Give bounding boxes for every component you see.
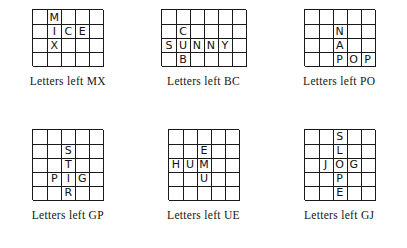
- grid-cell-empty[interactable]: [89, 38, 104, 53]
- grid-cell-empty[interactable]: [361, 10, 376, 25]
- grid-cell-filled[interactable]: E: [197, 144, 212, 159]
- grid-cell-filled[interactable]: G: [75, 172, 90, 187]
- grid-cell-empty[interactable]: [33, 52, 48, 67]
- grid-cell-empty[interactable]: [305, 172, 320, 187]
- grid-cell-empty[interactable]: [33, 172, 48, 187]
- grid-cell-empty[interactable]: [33, 10, 48, 25]
- grid-cell-empty[interactable]: [162, 52, 177, 67]
- grid-cell-empty[interactable]: [89, 172, 104, 187]
- grid-cell-empty[interactable]: [204, 10, 219, 25]
- grid-cell-filled[interactable]: L: [333, 144, 348, 159]
- grid-cell-empty[interactable]: [183, 186, 198, 201]
- grid-cell-empty[interactable]: [347, 172, 362, 187]
- grid-cell-filled[interactable]: S: [162, 38, 177, 53]
- grid-cell-empty[interactable]: [197, 186, 212, 201]
- grid-cell-filled[interactable]: U: [197, 172, 212, 187]
- grid-cell-empty[interactable]: [305, 10, 320, 25]
- grid-cell-empty[interactable]: [319, 130, 334, 145]
- grid-cell-empty[interactable]: [75, 52, 90, 67]
- grid-cell-empty[interactable]: [75, 186, 90, 201]
- grid-cell-empty[interactable]: [190, 52, 205, 67]
- grid-cell-filled[interactable]: O: [333, 158, 348, 173]
- grid-cell-empty[interactable]: [33, 144, 48, 159]
- grid-cell-empty[interactable]: [33, 130, 48, 145]
- grid-cell-empty[interactable]: [305, 24, 320, 39]
- grid-cell-filled[interactable]: T: [61, 158, 76, 173]
- grid-cell-filled[interactable]: N: [190, 38, 205, 53]
- grid-cell-empty[interactable]: [169, 186, 184, 201]
- grid-cell-empty[interactable]: [190, 10, 205, 25]
- grid-cell-empty[interactable]: [183, 172, 198, 187]
- grid-cell-filled[interactable]: G: [347, 158, 362, 173]
- grid-cell-empty[interactable]: [305, 186, 320, 201]
- grid-cell-empty[interactable]: [347, 130, 362, 145]
- grid-cell-filled[interactable]: N: [204, 38, 219, 53]
- grid-cell-empty[interactable]: [319, 144, 334, 159]
- grid-cell-empty[interactable]: [169, 130, 184, 145]
- grid-cell-filled[interactable]: P: [333, 172, 348, 187]
- grid-cell-empty[interactable]: [361, 24, 376, 39]
- grid-cell-empty[interactable]: [89, 186, 104, 201]
- grid-cell-empty[interactable]: [89, 52, 104, 67]
- grid-cell-filled[interactable]: J: [319, 158, 334, 173]
- grid-cell-empty[interactable]: [305, 144, 320, 159]
- grid-cell-empty[interactable]: [61, 52, 76, 67]
- grid-cell-empty[interactable]: [361, 38, 376, 53]
- grid-cell-filled[interactable]: M: [197, 158, 212, 173]
- grid-cell-empty[interactable]: [89, 10, 104, 25]
- grid-cell-empty[interactable]: [218, 10, 233, 25]
- grid-cell-empty[interactable]: [176, 10, 191, 25]
- grid-cell-empty[interactable]: [169, 144, 184, 159]
- grid-cell-empty[interactable]: [225, 172, 240, 187]
- grid-cell-empty[interactable]: [347, 144, 362, 159]
- grid-cell-empty[interactable]: [319, 186, 334, 201]
- grid-cell-empty[interactable]: [305, 38, 320, 53]
- grid-cell-empty[interactable]: [232, 24, 247, 39]
- grid-cell-empty[interactable]: [319, 38, 334, 53]
- grid-cell-filled[interactable]: P: [361, 52, 376, 67]
- grid-cell-empty[interactable]: [47, 130, 62, 145]
- grid-cell-empty[interactable]: [305, 52, 320, 67]
- grid-cell-empty[interactable]: [319, 52, 334, 67]
- grid-cell-filled[interactable]: M: [47, 10, 62, 25]
- grid-cell-empty[interactable]: [47, 158, 62, 173]
- grid-cell-empty[interactable]: [211, 158, 226, 173]
- grid-cell-empty[interactable]: [162, 24, 177, 39]
- grid-cell-filled[interactable]: A: [333, 38, 348, 53]
- grid-cell-empty[interactable]: [211, 186, 226, 201]
- grid-cell-filled[interactable]: P: [47, 172, 62, 187]
- grid-cell-empty[interactable]: [89, 158, 104, 173]
- grid-cell-empty[interactable]: [169, 172, 184, 187]
- grid-cell-empty[interactable]: [319, 10, 334, 25]
- grid-cell-empty[interactable]: [361, 186, 376, 201]
- grid-cell-filled[interactable]: X: [47, 38, 62, 53]
- grid-cell-empty[interactable]: [232, 52, 247, 67]
- grid-cell-filled[interactable]: U: [176, 38, 191, 53]
- grid-cell-empty[interactable]: [183, 144, 198, 159]
- grid-cell-empty[interactable]: [225, 144, 240, 159]
- grid-cell-empty[interactable]: [33, 158, 48, 173]
- grid-cell-empty[interactable]: [225, 130, 240, 145]
- grid-cell-filled[interactable]: S: [333, 130, 348, 145]
- grid-cell-empty[interactable]: [197, 130, 212, 145]
- grid-cell-empty[interactable]: [89, 130, 104, 145]
- grid-cell-filled[interactable]: C: [176, 24, 191, 39]
- grid-cell-empty[interactable]: [75, 38, 90, 53]
- grid-cell-empty[interactable]: [75, 10, 90, 25]
- grid-cell-empty[interactable]: [319, 172, 334, 187]
- grid-cell-empty[interactable]: [361, 144, 376, 159]
- grid-cell-filled[interactable]: B: [176, 52, 191, 67]
- grid-cell-empty[interactable]: [89, 144, 104, 159]
- grid-cell-empty[interactable]: [232, 38, 247, 53]
- grid-cell-empty[interactable]: [232, 10, 247, 25]
- grid-cell-empty[interactable]: [47, 144, 62, 159]
- grid-cell-filled[interactable]: S: [61, 144, 76, 159]
- grid-cell-empty[interactable]: [61, 130, 76, 145]
- grid-cell-empty[interactable]: [33, 24, 48, 39]
- grid-cell-empty[interactable]: [33, 186, 48, 201]
- grid-cell-empty[interactable]: [162, 10, 177, 25]
- grid-cell-empty[interactable]: [47, 186, 62, 201]
- grid-cell-filled[interactable]: P: [333, 52, 348, 67]
- grid-cell-empty[interactable]: [183, 130, 198, 145]
- grid-cell-empty[interactable]: [347, 10, 362, 25]
